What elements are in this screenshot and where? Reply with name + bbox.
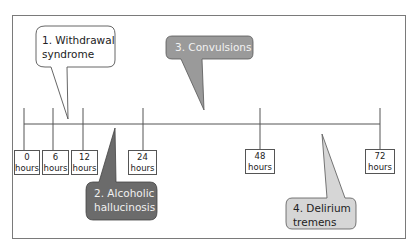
tick-value: 0 [15,152,39,163]
callout-3-text: 3. Convulsions [175,40,252,54]
callout-line: 4. Delirium [293,201,351,215]
callout-line: tremens [293,215,351,229]
tick-value: 72 [366,151,394,162]
tick-label-48h: 48 hours [245,149,275,174]
tick-value: 48 [246,151,274,162]
callout-line: 1. Withdrawal [42,33,115,47]
tick-unit: hours [129,163,156,174]
callout-line: syndrome [42,47,115,61]
tick-unit: hours [15,163,39,174]
tick-unit: hours [43,163,68,174]
tick-unit: hours [366,162,394,173]
tick-unit: hours [72,163,97,174]
tick-unit: hours [246,162,274,173]
tick-label-24h: 24 hours [128,150,157,175]
tick-label-6h: 6 hours [42,150,69,175]
tick-label-12h: 12 hours [71,150,98,175]
tick-value: 12 [72,152,97,163]
callout-1-text: 1. Withdrawal syndrome [42,33,115,61]
tick-label-0h: 0 hours [14,150,40,175]
callout-line: hallucinosis [94,200,155,214]
callout-line: 3. Convulsions [175,40,252,54]
tick-label-72h: 72 hours [365,149,395,174]
callout-4-text: 4. Delirium tremens [293,201,351,229]
timeline-ticks [24,108,380,150]
tick-value: 6 [43,152,68,163]
tick-value: 24 [129,152,156,163]
callout-2-text: 2. Alcoholic hallucinosis [94,186,155,214]
callout-line: 2. Alcoholic [94,186,155,200]
